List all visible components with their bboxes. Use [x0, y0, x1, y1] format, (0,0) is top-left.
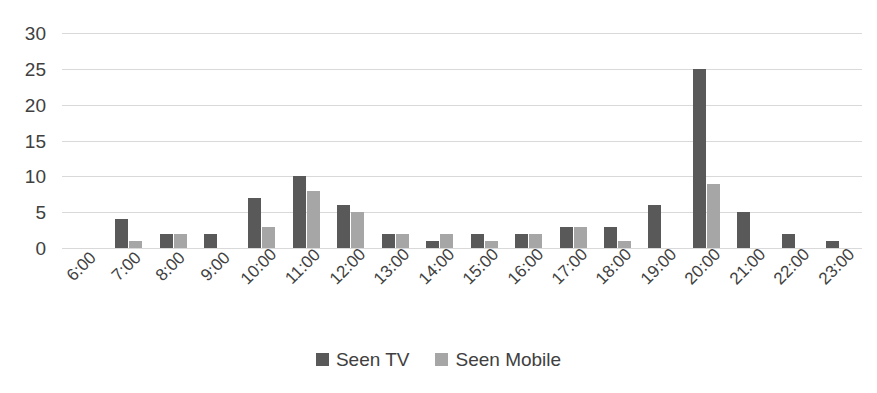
- bar-chart: 302520151050 6:007:008:009:0010:0011:001…: [0, 0, 877, 393]
- y-axis-tick-label: 30: [25, 24, 46, 43]
- bar-seen-tv: [160, 234, 173, 248]
- x-axis-tick: 19:00: [640, 250, 684, 320]
- bar-group: [418, 33, 462, 248]
- bar-seen-tv: [115, 219, 128, 248]
- x-axis-tick-label: 22:00: [771, 245, 813, 287]
- x-axis-tick: 11:00: [284, 250, 328, 320]
- bar-group: [62, 33, 106, 248]
- x-axis-tick: 6:00: [62, 250, 106, 320]
- x-axis-tick-label: 8:00: [153, 249, 188, 284]
- bar-group: [462, 33, 506, 248]
- bar-seen-mobile: [174, 234, 187, 248]
- legend-label: Seen TV: [336, 350, 410, 369]
- x-axis: 6:007:008:009:0010:0011:0012:0013:0014:0…: [62, 250, 862, 320]
- x-axis-tick-label: 10:00: [238, 245, 280, 287]
- x-axis-tick: 10:00: [240, 250, 284, 320]
- bar-group: [551, 33, 595, 248]
- y-axis-tick-label: 25: [25, 59, 46, 78]
- bar-group: [106, 33, 150, 248]
- x-axis-tick: 20:00: [684, 250, 728, 320]
- x-axis-tick: 22:00: [773, 250, 817, 320]
- bar-group: [773, 33, 817, 248]
- bar-seen-mobile: [351, 212, 364, 248]
- x-axis-tick: 21:00: [729, 250, 773, 320]
- x-axis-tick-label: 14:00: [415, 245, 457, 287]
- x-axis-tick-label: 21:00: [726, 245, 768, 287]
- bar-group: [240, 33, 284, 248]
- x-axis-tick-label: 18:00: [593, 245, 635, 287]
- x-axis-tick-label: 17:00: [549, 245, 591, 287]
- bar-group: [373, 33, 417, 248]
- bar-group: [284, 33, 328, 248]
- bar-seen-tv: [382, 234, 395, 248]
- bar-group: [640, 33, 684, 248]
- legend-swatch-icon: [435, 353, 448, 366]
- legend-label: Seen Mobile: [455, 350, 561, 369]
- x-axis-tick: 15:00: [462, 250, 506, 320]
- gridline: [62, 248, 862, 249]
- x-axis-tick: 14:00: [418, 250, 462, 320]
- bar-group: [195, 33, 239, 248]
- bar-seen-tv: [337, 205, 350, 248]
- bar-group: [595, 33, 639, 248]
- bar-seen-tv: [471, 234, 484, 248]
- y-axis-tick-label: 20: [25, 95, 46, 114]
- bar-seen-tv: [426, 241, 439, 248]
- x-axis-tick-label: 15:00: [460, 245, 502, 287]
- legend-item[interactable]: Seen TV: [316, 350, 410, 369]
- bar-seen-tv: [515, 234, 528, 248]
- bar-seen-mobile: [262, 227, 275, 249]
- y-axis-tick-label: 5: [35, 203, 46, 222]
- x-axis-tick-label: 7:00: [108, 249, 143, 284]
- bar-seen-tv: [782, 234, 795, 248]
- x-axis-tick-label: 9:00: [197, 249, 232, 284]
- bar-seen-mobile: [707, 184, 720, 249]
- bar-group: [329, 33, 373, 248]
- bar-seen-tv: [248, 198, 261, 248]
- x-axis-tick-label: 19:00: [637, 245, 679, 287]
- x-axis-tick: 9:00: [195, 250, 239, 320]
- bar-seen-tv: [648, 205, 661, 248]
- legend-item[interactable]: Seen Mobile: [435, 350, 561, 369]
- bar-seen-mobile: [129, 241, 142, 248]
- x-axis-tick: 17:00: [551, 250, 595, 320]
- x-axis-tick: 7:00: [106, 250, 150, 320]
- x-axis-tick: 12:00: [329, 250, 373, 320]
- y-axis-tick-label: 15: [25, 131, 46, 150]
- x-axis-tick: 23:00: [817, 250, 861, 320]
- x-axis-tick-label: 6:00: [64, 249, 99, 284]
- bar-seen-tv: [204, 234, 217, 248]
- bar-seen-tv: [693, 69, 706, 248]
- bar-seen-mobile: [574, 227, 587, 249]
- bar-seen-tv: [826, 241, 839, 248]
- x-axis-tick-label: 12:00: [326, 245, 368, 287]
- x-axis-tick-label: 20:00: [682, 245, 724, 287]
- legend-swatch-icon: [316, 353, 329, 366]
- x-axis-tick: 13:00: [373, 250, 417, 320]
- y-axis: 302520151050: [0, 0, 56, 281]
- bar-group: [506, 33, 550, 248]
- bar-seen-tv: [737, 212, 750, 248]
- bars-layer: [62, 33, 862, 248]
- bar-seen-tv: [293, 176, 306, 248]
- legend: Seen TVSeen Mobile: [0, 350, 877, 369]
- x-axis-tick-label: 13:00: [371, 245, 413, 287]
- bar-group: [729, 33, 773, 248]
- bar-group: [684, 33, 728, 248]
- bar-seen-mobile: [307, 191, 320, 248]
- bar-seen-tv: [604, 227, 617, 249]
- bar-group: [817, 33, 861, 248]
- x-axis-tick-label: 16:00: [504, 245, 546, 287]
- x-axis-tick: 8:00: [151, 250, 195, 320]
- x-axis-tick: 18:00: [595, 250, 639, 320]
- bar-seen-tv: [560, 227, 573, 249]
- bar-group: [151, 33, 195, 248]
- x-axis-tick-label: 11:00: [282, 246, 323, 287]
- y-axis-tick-label: 0: [35, 239, 46, 258]
- x-axis-tick-label: 23:00: [815, 245, 857, 287]
- y-axis-tick-label: 10: [25, 167, 46, 186]
- x-axis-tick: 16:00: [506, 250, 550, 320]
